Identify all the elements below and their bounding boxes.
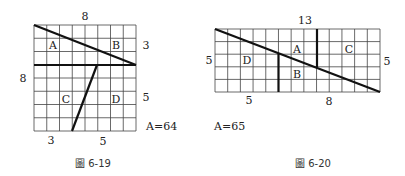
right-label-bottom: 5 — [143, 91, 150, 104]
bottom-label-right: 8 — [326, 95, 333, 108]
bottom-label-left: 3 — [48, 134, 55, 147]
piece-b-label: B — [112, 39, 120, 52]
right-label: 5 — [384, 55, 391, 68]
piece-c-label: C — [62, 93, 70, 106]
bottom-label-left: 5 — [246, 94, 253, 107]
slanted-cut-line — [72, 65, 97, 131]
diagram-canvas: 8 8 3 5 3 5 A B C D A=64 圖 6-19 13 5 5 5… — [0, 0, 405, 176]
bottom-label-right: 5 — [100, 135, 107, 148]
left-label: 5 — [206, 54, 213, 67]
piece-a-label: A — [292, 43, 302, 56]
piece-a-label: A — [48, 39, 58, 52]
top-label: 13 — [298, 14, 312, 27]
figure-caption: 圖 6-20 — [295, 158, 331, 169]
area-label: A=65 — [213, 120, 245, 133]
figure-caption: 圖 6-19 — [75, 158, 111, 169]
area-label: A=64 — [145, 120, 177, 133]
figure-6-20: 13 5 5 5 8 A B C D A=65 圖 6-20 — [206, 14, 391, 169]
piece-b-label: B — [293, 68, 301, 81]
top-label: 8 — [82, 10, 89, 23]
right-label-top: 3 — [143, 39, 150, 52]
diagonal-cut-line — [215, 29, 380, 92]
left-label: 8 — [20, 72, 27, 85]
piece-c-label: C — [345, 43, 353, 56]
figure-6-19: 8 8 3 5 3 5 A B C D A=64 圖 6-19 — [20, 10, 178, 169]
piece-d-label: D — [112, 93, 121, 106]
piece-d-label: D — [243, 54, 252, 67]
